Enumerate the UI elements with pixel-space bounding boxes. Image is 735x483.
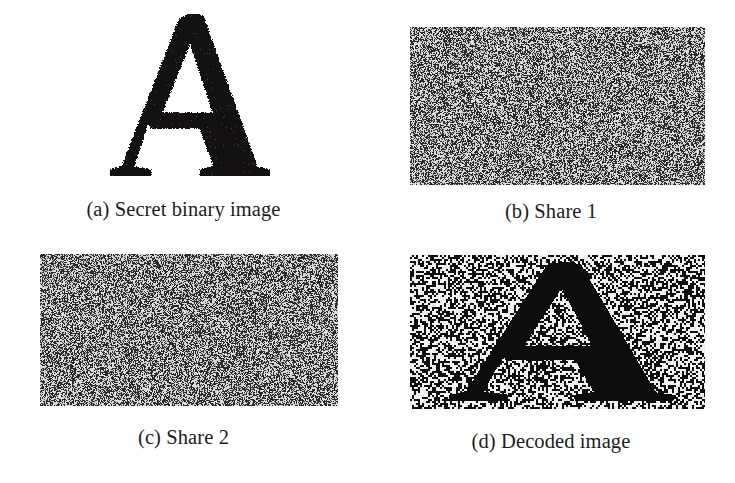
panel-decoded-image: (d) Decoded image <box>367 241 735 483</box>
panel-secret-binary-image: (a) Secret binary image <box>0 0 367 241</box>
caption-share-2: (c) Share 2 <box>0 426 367 449</box>
panel-share-2: (c) Share 2 <box>0 241 367 483</box>
panel-share-1: (b) Share 1 <box>367 0 735 241</box>
secret-binary-image-canvas <box>110 14 270 182</box>
share-1-noise-canvas <box>410 27 705 185</box>
decoded-image-canvas <box>410 255 705 409</box>
share-2-noise-canvas <box>40 254 338 406</box>
caption-share-1: (b) Share 1 <box>367 200 735 223</box>
figure-grid: (a) Secret binary image (b) Share 1 (c) … <box>0 0 735 483</box>
caption-secret-binary-image: (a) Secret binary image <box>0 198 367 221</box>
caption-decoded-image: (d) Decoded image <box>367 430 735 453</box>
